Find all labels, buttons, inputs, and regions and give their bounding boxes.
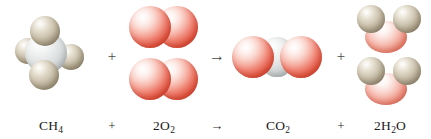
label-methane: CH4 xyxy=(8,112,94,139)
label-dioxygen-prefix: 2O xyxy=(153,118,170,133)
molecule-dioxygen-group xyxy=(128,0,200,112)
hydrogen-atom xyxy=(357,57,385,85)
oxygen-atom xyxy=(232,36,274,78)
molecule-carbon-dioxide xyxy=(232,0,324,112)
formula-label-row: CH4 + 2O2 → CO2 + 2H2O xyxy=(0,112,431,139)
label-dioxygen: 2O2 xyxy=(128,112,200,139)
molecule-water-group xyxy=(352,0,428,112)
label-water-prefix: 2H xyxy=(374,118,391,133)
hydrogen-atom xyxy=(30,16,60,46)
label-water-suffix: O xyxy=(396,118,406,133)
reaction-arrow: → xyxy=(200,0,234,112)
molecule-dioxygen xyxy=(128,58,200,102)
label-arrow: → xyxy=(200,112,234,139)
label-plus-1: + xyxy=(94,112,130,139)
hydrogen-atom xyxy=(393,57,421,85)
label-water: 2H2O xyxy=(352,112,428,139)
hydrogen-atom xyxy=(393,5,421,33)
label-carbon-dioxide-prefix: CO xyxy=(266,118,285,133)
molecule-dioxygen xyxy=(128,6,200,50)
label-carbon-dioxide-subscript: 2 xyxy=(285,125,290,135)
label-methane-prefix: CH xyxy=(39,118,58,133)
molecule-water xyxy=(352,57,428,105)
hydrogen-atom xyxy=(29,60,59,90)
label-carbon-dioxide: CO2 xyxy=(232,112,324,139)
oxygen-atom xyxy=(280,36,322,78)
chemical-equation-figure: + → xyxy=(0,0,431,139)
plus-operator-reactants: + xyxy=(94,0,130,112)
oxygen-atom xyxy=(129,58,171,100)
label-methane-subscript: 4 xyxy=(58,125,63,135)
molecule-row: + → xyxy=(0,0,431,112)
hydrogen-atom xyxy=(357,5,385,33)
molecule-water xyxy=(352,5,428,53)
oxygen-atom xyxy=(129,6,171,48)
label-water-subscript: 2 xyxy=(391,125,396,135)
label-dioxygen-subscript: 2 xyxy=(170,125,175,135)
molecule-methane xyxy=(8,0,94,112)
